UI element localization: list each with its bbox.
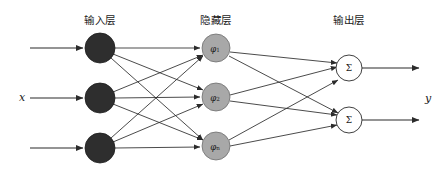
input-layer-nodes bbox=[85, 33, 115, 163]
edges-input-to-hidden bbox=[111, 48, 203, 148]
neural-network-diagram: 输入层 隐藏层 输出层 bbox=[0, 0, 442, 176]
output-node-1-label: Σ bbox=[346, 63, 352, 73]
input-node-1 bbox=[85, 33, 115, 63]
edge-hid2-out1 bbox=[230, 67, 337, 95]
hidden-layer-nodes: φ1 φ2 φn bbox=[202, 34, 230, 160]
output-arrows-group bbox=[362, 68, 419, 120]
input-node-3 bbox=[85, 133, 115, 163]
edge-hid1-out1 bbox=[230, 52, 337, 63]
output-layer-nodes: Σ Σ bbox=[336, 55, 362, 133]
edge-in1-hid3 bbox=[111, 58, 203, 140]
edge-hid2-out2 bbox=[230, 101, 337, 115]
edge-in2-hid1 bbox=[113, 55, 203, 92]
edge-hid3-out2 bbox=[230, 125, 337, 146]
edge-in3-hid3 bbox=[115, 147, 200, 148]
input-node-2 bbox=[85, 83, 115, 113]
input-signal-label: x bbox=[19, 91, 26, 104]
output-signal-label: y bbox=[424, 92, 432, 105]
edge-hid3-out1 bbox=[229, 80, 338, 140]
edge-in2-hid2 bbox=[115, 97, 200, 98]
output-node-2-label: Σ bbox=[346, 115, 352, 125]
edges-hidden-to-output bbox=[229, 52, 338, 146]
diagram-canvas: 输入层 隐藏层 输出层 bbox=[0, 0, 442, 176]
edge-hid1-out2 bbox=[229, 56, 338, 113]
layer-title-hidden: 隐藏层 bbox=[200, 14, 232, 26]
input-arrows-group bbox=[30, 48, 83, 148]
layer-title-input: 输入层 bbox=[84, 14, 116, 26]
layer-title-output: 输出层 bbox=[333, 14, 365, 26]
